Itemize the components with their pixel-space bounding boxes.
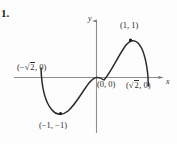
label-neg-sqrt2-prefix: (− bbox=[17, 62, 25, 72]
label-local-max-point: (1, 1) bbox=[120, 21, 138, 30]
radical-sign: √ bbox=[25, 62, 30, 72]
math-figure-panel: 1. (−√2, 0) (0, 0) (√2, 0) (1, 1) (−1, −… bbox=[0, 0, 177, 144]
local-max-marker bbox=[129, 38, 132, 41]
label-pos-sqrt2-suffix: , 0) bbox=[139, 80, 150, 90]
label-positive-sqrt2-intercept: (√2, 0) bbox=[126, 80, 151, 90]
problem-number: 1. bbox=[1, 8, 9, 19]
local-min-marker bbox=[59, 112, 62, 115]
label-local-min-point: (−1, −1) bbox=[39, 121, 67, 130]
label-origin-point: (0, 0) bbox=[97, 80, 115, 89]
radical-sign: √ bbox=[129, 80, 134, 90]
label-negative-sqrt2-intercept: (−√2, 0) bbox=[17, 62, 46, 72]
y-axis-label: y bbox=[88, 15, 92, 23]
x-axis-label: x bbox=[166, 78, 170, 86]
label-neg-sqrt2-suffix: , 0) bbox=[35, 62, 46, 72]
